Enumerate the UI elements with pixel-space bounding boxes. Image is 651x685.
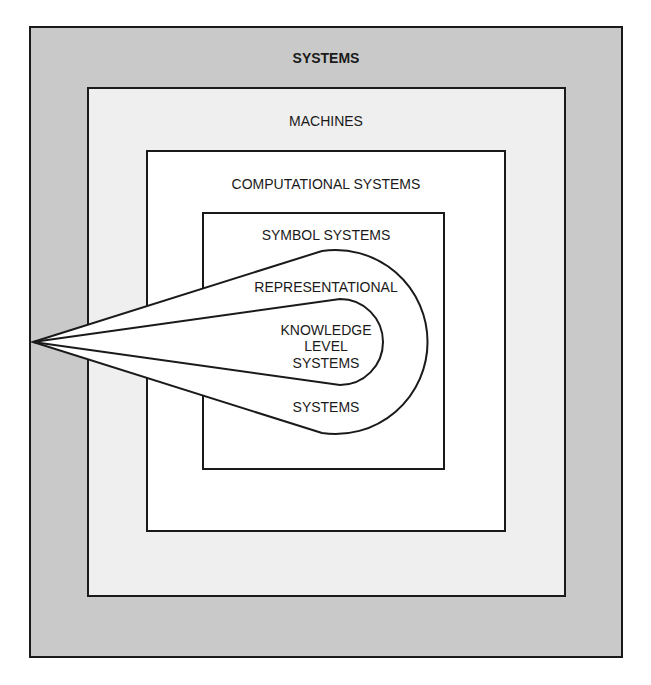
label-symbol-systems: SYMBOL SYSTEMS [262, 227, 391, 243]
label-knowledge-systems: SYSTEMS [293, 355, 360, 371]
label-systems: SYSTEMS [293, 50, 360, 66]
label-representational-systems: SYSTEMS [293, 399, 360, 415]
label-machines: MACHINES [289, 113, 363, 129]
nested-systems-diagram: SYSTEMS MACHINES COMPUTATIONAL SYSTEMS S… [0, 0, 651, 685]
label-computational-systems: COMPUTATIONAL SYSTEMS [232, 176, 421, 192]
label-level: LEVEL [304, 338, 348, 354]
label-knowledge: KNOWLEDGE [280, 322, 371, 338]
label-representational: REPRESENTATIONAL [254, 279, 398, 295]
